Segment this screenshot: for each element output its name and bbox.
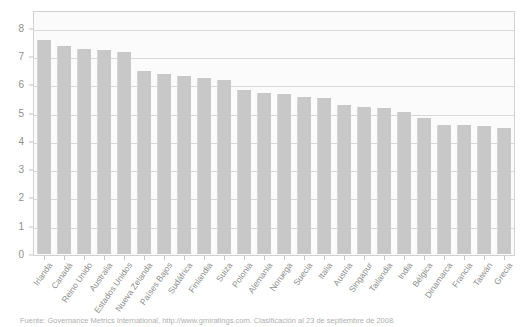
bar [337,105,350,254]
x-tick-mark [184,256,185,260]
x-tick-label-text: Taiwán [472,261,495,288]
bar [357,107,370,254]
bar [217,80,230,254]
x-tick-mark [64,256,65,260]
y-axis: 012345678 [0,11,33,256]
x-tick-mark [324,256,325,260]
x-tick-mark [244,256,245,260]
x-tick-mark [204,256,205,260]
y-tick-label: 2 [18,193,24,203]
y-tick-label: 3 [18,165,24,175]
bar [37,40,50,254]
x-tick-mark [84,256,85,260]
x-tick-mark [404,256,405,260]
bar [317,98,330,254]
x-tick-mark [364,256,365,260]
y-tick-label: 8 [18,24,24,34]
chart-figure: 012345678 IrlandaCanadáReino UnidoAustra… [0,0,524,327]
y-tick-label: 6 [18,80,24,90]
bar [497,128,510,254]
x-tick-mark [224,256,225,260]
bar-series [34,12,514,255]
y-tick-label: 7 [18,52,24,62]
x-tick-mark [164,256,165,260]
bar [57,46,70,254]
bar [437,125,450,254]
bar [417,118,430,254]
bar [97,50,110,254]
x-tick-mark [424,256,425,260]
bar [237,90,250,254]
bar [77,49,90,254]
y-tick-label: 4 [18,137,24,147]
y-tick-label: 0 [18,250,24,260]
bar [137,71,150,254]
bar [117,52,130,254]
y-tick-label: 5 [18,109,24,119]
x-tick-label-text: Italia [317,261,335,281]
bar [397,112,410,254]
x-tick-mark [444,256,445,260]
x-tick-label-text: Grecia [493,261,515,287]
bar [377,108,390,254]
x-tick-mark [264,256,265,260]
x-tick-label-text: Suecia [292,261,314,287]
x-tick-mark [464,256,465,260]
bar [277,94,290,254]
x-tick-label-text: India [396,261,414,281]
x-tick-mark [344,256,345,260]
x-tick-mark [384,256,385,260]
y-tick-label: 1 [18,222,24,232]
bar [297,97,310,254]
source-note: Fuente: Governance Metrics International… [20,316,524,325]
x-tick-mark [144,256,145,260]
x-tick-mark [124,256,125,260]
x-axis: IrlandaCanadáReino UnidoAustraliaEstados… [34,256,514,312]
x-tick-mark [504,256,505,260]
x-tick-mark [284,256,285,260]
x-tick-mark [304,256,305,260]
x-tick-mark [104,256,105,260]
x-tick-mark [44,256,45,260]
bar [477,126,490,254]
bar [257,93,270,254]
x-tick-mark [484,256,485,260]
